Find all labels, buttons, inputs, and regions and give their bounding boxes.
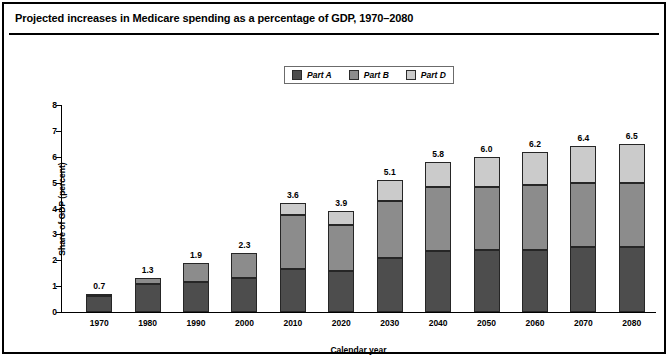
title-bar: Projected increases in Medicare spending… — [4, 4, 664, 34]
bar-segment-part-d[interactable] — [425, 162, 451, 187]
bar-group[interactable]: 6.4 — [570, 105, 596, 312]
bar-segment-part-b[interactable] — [135, 278, 161, 283]
bar-total-label: 6.4 — [577, 133, 589, 143]
bar-segment-part-b[interactable] — [570, 183, 596, 248]
x-axis-tick-label: 2050 — [477, 318, 496, 328]
legend-item: Part B — [349, 70, 389, 80]
bar-group[interactable]: 3.6 — [280, 105, 306, 312]
title-divider — [9, 33, 659, 35]
bar-segment-part-b[interactable] — [522, 185, 548, 250]
bar-segment-part-a[interactable] — [86, 296, 112, 312]
x-axis-tick-label: 1990 — [187, 318, 206, 328]
x-axis-tick-label: 2020 — [332, 318, 351, 328]
bar-segment-part-a[interactable] — [328, 271, 354, 312]
bar-group[interactable]: 5.1 — [377, 105, 403, 312]
x-axis-tick-label: 1970 — [90, 318, 109, 328]
bar-segment-part-b[interactable] — [474, 187, 500, 250]
bar-segment-part-b[interactable] — [280, 215, 306, 269]
bar-segment-part-b[interactable] — [425, 187, 451, 252]
legend-swatch-icon — [349, 70, 359, 80]
y-axis-tick-label: 1 — [52, 281, 57, 291]
bar-segment-part-a[interactable] — [377, 258, 403, 312]
bar-segment-part-a[interactable] — [135, 284, 161, 312]
bar-segment-part-d[interactable] — [474, 157, 500, 187]
legend-item: Part A — [292, 70, 332, 80]
bar-total-label: 6.2 — [529, 139, 541, 149]
bar-group[interactable]: 1.3 — [135, 105, 161, 312]
chart-figure: Projected increases in Medicare spending… — [2, 2, 666, 354]
bar-group[interactable]: 6.2 — [522, 105, 548, 312]
bar-total-label: 1.9 — [190, 250, 202, 260]
bar-segment-part-d[interactable] — [328, 211, 354, 225]
bar-segment-part-a[interactable] — [183, 282, 209, 312]
bar-segment-part-b[interactable] — [86, 294, 112, 297]
bar-segment-part-a[interactable] — [425, 251, 451, 312]
legend-label: Part D — [421, 70, 446, 80]
legend-label: Part A — [307, 70, 332, 80]
y-axis-tick-label: 2 — [52, 255, 57, 265]
bar-group[interactable]: 6.5 — [619, 105, 645, 312]
bar-total-label: 6.0 — [481, 144, 493, 154]
x-axis-tick-label: 2030 — [380, 318, 399, 328]
bar-total-label: 1.3 — [142, 265, 154, 275]
bar-segment-part-a[interactable] — [619, 247, 645, 312]
bar-group[interactable]: 0.7 — [86, 105, 112, 312]
bar-segment-part-a[interactable] — [522, 250, 548, 312]
x-axis-tick-label: 2080 — [622, 318, 641, 328]
legend-item: Part D — [406, 70, 446, 80]
bar-segment-part-d[interactable] — [570, 146, 596, 182]
bar-group[interactable]: 6.0 — [474, 105, 500, 312]
legend-swatch-icon — [292, 70, 302, 80]
plot-area: Share of GDP (percent) Calendar year 012… — [61, 105, 656, 312]
y-axis-tick-label: 3 — [52, 229, 57, 239]
bar-segment-part-a[interactable] — [474, 250, 500, 312]
y-axis-tick-label: 6 — [52, 152, 57, 162]
bar-total-label: 5.1 — [384, 167, 396, 177]
x-axis-tick-label: 2040 — [429, 318, 448, 328]
y-axis-tick-label: 5 — [52, 178, 57, 188]
page-title: Projected increases in Medicare spending… — [15, 12, 413, 24]
bar-segment-part-d[interactable] — [619, 144, 645, 183]
bar-total-label: 3.6 — [287, 190, 299, 200]
bar-total-label: 6.5 — [626, 131, 638, 141]
bar-segment-part-b[interactable] — [328, 225, 354, 270]
x-axis-tick-label: 2010 — [283, 318, 302, 328]
y-axis-tick-label: 4 — [52, 204, 57, 214]
bar-group[interactable]: 1.9 — [183, 105, 209, 312]
bar-segment-part-a[interactable] — [280, 269, 306, 312]
bar-group[interactable]: 5.8 — [425, 105, 451, 312]
legend-label: Part B — [364, 70, 389, 80]
bar-segment-part-b[interactable] — [231, 253, 257, 279]
legend-swatch-icon — [406, 70, 416, 80]
y-axis-tick-label: 0 — [52, 307, 57, 317]
x-axis-tick-label: 2000 — [235, 318, 254, 328]
chart-legend: Part APart BPart D — [284, 66, 454, 84]
x-axis-title: Calendar year — [61, 345, 656, 355]
bar-group[interactable]: 3.9 — [328, 105, 354, 312]
y-axis-tick-label: 8 — [52, 100, 57, 110]
x-axis-tick-label: 1980 — [138, 318, 157, 328]
bar-segment-part-a[interactable] — [231, 278, 257, 312]
bar-total-label: 2.3 — [239, 240, 251, 250]
bar-segment-part-a[interactable] — [570, 247, 596, 312]
bar-segment-part-b[interactable] — [377, 201, 403, 258]
bar-segment-part-b[interactable] — [619, 183, 645, 248]
x-axis-tick-label: 2070 — [574, 318, 593, 328]
bar-segment-part-d[interactable] — [522, 152, 548, 186]
bar-segment-part-d[interactable] — [377, 180, 403, 201]
x-axis-tick-label: 2060 — [525, 318, 544, 328]
bar-segment-part-d[interactable] — [280, 203, 306, 215]
y-axis-tick-label: 7 — [52, 126, 57, 136]
bar-total-label: 0.7 — [93, 281, 105, 291]
bar-total-label: 5.8 — [432, 149, 444, 159]
bar-group[interactable]: 2.3 — [231, 105, 257, 312]
x-axis-line — [61, 312, 656, 313]
bar-segment-part-b[interactable] — [183, 263, 209, 282]
bar-total-label: 3.9 — [335, 198, 347, 208]
